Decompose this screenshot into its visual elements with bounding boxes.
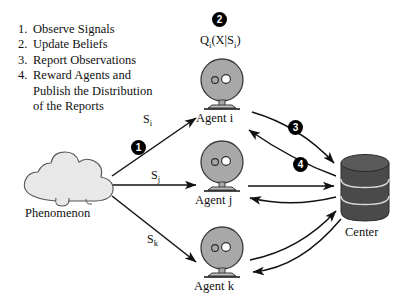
agent-k-label: Agent k [194, 279, 234, 294]
protocol-step-3-text: Report Observations [33, 53, 203, 68]
protocol-step-4: 4. Reward Agents and [18, 68, 203, 83]
center-label: Center [345, 225, 378, 240]
signal-s-i-subscript: i [150, 118, 152, 128]
badge-1: 1 [131, 140, 146, 155]
cloud-icon [24, 152, 113, 206]
phenomenon-label: Phenomenon [25, 206, 90, 221]
belief-formula: Qi(X|Si) [200, 33, 241, 50]
protocol-step-1: 1. Observe Signals [18, 22, 203, 37]
badge-3: 3 [288, 120, 303, 135]
formula-q: Q [200, 33, 209, 47]
signal-s-i-base: S [143, 112, 150, 126]
protocol-step-4-text: Reward Agents and [33, 68, 203, 83]
protocol-step-3: 3. Report Observations [18, 53, 203, 68]
signal-label-s-i: Si [143, 112, 152, 128]
formula-open: (X|S [211, 33, 234, 47]
protocol-step-4-continuation-1: Publish the Distribution [18, 84, 203, 99]
protocol-step-3-number: 3. [18, 53, 33, 68]
protocol-step-2-number: 2. [18, 37, 33, 52]
signal-s-j-base: S [151, 168, 158, 182]
protocol-step-1-text: Observe Signals [33, 22, 203, 37]
signal-label-s-k: Sk [147, 232, 158, 248]
badge-2: 2 [212, 12, 227, 27]
protocol-step-list: 1. Observe Signals 2. Update Beliefs 3. … [18, 22, 203, 114]
agent-icon-k [201, 227, 243, 277]
protocol-step-4-continuation-2: of the Reports [18, 99, 203, 114]
protocol-step-4-number: 4. [18, 68, 33, 83]
signal-label-s-j: Sj [151, 168, 160, 184]
signal-s-j-subscript: j [158, 174, 160, 184]
protocol-step-2: 2. Update Beliefs [18, 37, 203, 52]
agent-j-label: Agent j [195, 193, 232, 208]
badge-4: 4 [293, 157, 308, 172]
signal-s-k-base: S [147, 232, 154, 246]
signal-s-k-subscript: k [154, 238, 158, 248]
database-icon [341, 155, 389, 222]
protocol-step-1-number: 1. [18, 22, 33, 37]
agent-icon-i [201, 59, 243, 109]
agent-i-label: Agent i [196, 111, 233, 126]
protocol-diagram: 1. Observe Signals 2. Update Beliefs 3. … [0, 0, 401, 305]
formula-close: ) [236, 33, 240, 47]
protocol-step-2-text: Update Beliefs [33, 37, 203, 52]
agent-icon-j [201, 141, 243, 191]
